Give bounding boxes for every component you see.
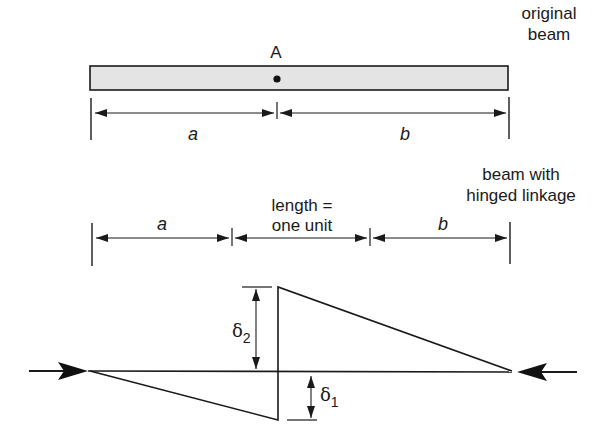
- dimension-b-label: b: [400, 124, 410, 144]
- original-beam-label-line1: original: [522, 4, 577, 23]
- right-force-arrow: [517, 363, 577, 381]
- point-a-dot: [273, 75, 280, 82]
- original-beam-label-line2: beam: [528, 25, 571, 44]
- deflected-linkage-shape: [90, 287, 512, 420]
- hinged-dimension-b-label: b: [438, 214, 448, 234]
- point-a-label: A: [270, 43, 282, 62]
- original-beam: [90, 66, 508, 90]
- unit-length-label-line2: one unit: [272, 216, 333, 235]
- original-beam-group: original beam A a b: [90, 4, 576, 144]
- diagram-canvas: original beam A a b beam with hinged lin…: [0, 0, 609, 448]
- hinged-beam-group: beam with hinged linkage length = one un…: [92, 165, 576, 266]
- delta1-label: δ1: [320, 384, 339, 410]
- hinged-dimension-a-label: a: [157, 214, 167, 234]
- hinged-beam-label-line2: hinged linkage: [466, 186, 576, 205]
- left-force-arrow: [29, 362, 88, 380]
- unit-length-label-line1: length =: [272, 196, 333, 215]
- delta2-label: δ2: [232, 320, 251, 346]
- hinged-beam-label-line1: beam with: [482, 165, 559, 184]
- beam-axis-line: [88, 371, 512, 372]
- deflected-linkage-group: δ2 δ1: [29, 287, 577, 420]
- dimension-a-label: a: [188, 124, 198, 144]
